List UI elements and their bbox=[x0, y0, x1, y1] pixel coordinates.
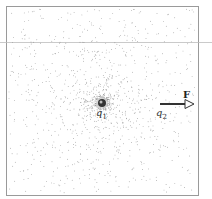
force-label: F bbox=[183, 90, 190, 100]
q2-label-sub: 2 bbox=[162, 113, 166, 121]
field-diagram bbox=[0, 0, 212, 199]
q2-label: q2 bbox=[156, 108, 167, 121]
q1-label-sub: 1 bbox=[102, 113, 106, 121]
q1-label: q1 bbox=[96, 108, 107, 121]
